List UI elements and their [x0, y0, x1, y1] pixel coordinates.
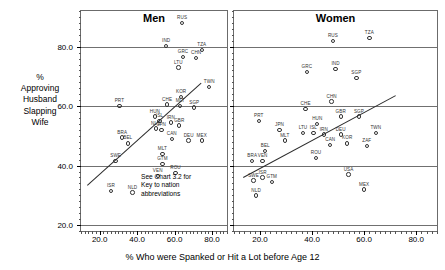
y-minor-tick: [79, 41, 82, 42]
y-minor-tick: [79, 148, 82, 149]
gridline-20: [81, 225, 227, 226]
data-point-label: GBR: [174, 118, 184, 123]
data-point: [160, 162, 164, 166]
data-point: [362, 187, 366, 191]
data-point-label: CHN: [326, 94, 336, 99]
x-minor-tick: [130, 231, 131, 234]
data-point-label: TWN: [204, 79, 215, 84]
y-minor-tick: [232, 172, 235, 173]
data-point-label: USA: [344, 167, 354, 172]
gridline-80: [234, 47, 437, 48]
x-minor-tick: [317, 231, 318, 234]
x-axis-label: % Who were Spanked or Hit a Lot before A…: [0, 252, 445, 262]
x-minor-tick: [186, 231, 187, 234]
data-point-label: IND: [331, 61, 339, 66]
x-minor-tick: [307, 231, 308, 234]
x-minor-tick: [156, 231, 157, 234]
y-minor-tick: [232, 53, 235, 54]
data-point: [113, 159, 117, 163]
y-minor-tick: [232, 177, 235, 178]
data-point-label: PRT: [115, 98, 124, 103]
data-point-label: TZA: [365, 30, 374, 35]
data-point: [333, 67, 337, 71]
x-tick-label: 40.0: [297, 235, 327, 244]
y-minor-tick: [79, 130, 82, 131]
data-point: [283, 138, 287, 142]
data-point-label: RUS: [328, 33, 338, 38]
data-point: [177, 123, 181, 127]
data-point-label: NLD: [128, 185, 138, 190]
x-tick-label: 20.0: [245, 235, 275, 244]
y-tick-label: 20.0: [39, 221, 73, 230]
chart-note: See Chart 3.2 for Key to nation abbrevia…: [141, 173, 191, 198]
x-minor-tick: [375, 231, 376, 234]
data-point: [303, 107, 307, 111]
y-minor-tick: [232, 195, 235, 196]
y-tick: [77, 47, 81, 48]
y-minor-tick: [79, 154, 82, 155]
y-minor-tick: [79, 112, 82, 113]
data-point: [357, 114, 361, 118]
x-minor-tick: [92, 231, 93, 234]
y-minor-tick: [79, 118, 82, 119]
y-minor-tick: [79, 100, 82, 101]
x-minor-tick: [343, 231, 344, 234]
data-point: [305, 70, 309, 74]
data-point-label: ISL: [156, 113, 163, 118]
y-minor-tick: [232, 201, 235, 202]
data-point-label: CAN: [325, 137, 335, 142]
x-minor-tick: [205, 231, 206, 234]
data-point: [251, 178, 255, 182]
y-minor-tick: [232, 29, 235, 30]
data-point-label: JPN: [275, 122, 284, 127]
data-point-label: BRA: [117, 130, 127, 135]
x-tick-label: 80.0: [197, 235, 227, 244]
data-point: [159, 128, 163, 132]
y-tick: [230, 225, 234, 226]
y-tick: [77, 225, 81, 226]
y-minor-tick: [232, 154, 235, 155]
x-minor-tick: [291, 231, 292, 234]
y-minor-tick: [232, 59, 235, 60]
x-minor-tick: [118, 231, 119, 234]
x-tick-label: 20.0: [85, 235, 115, 244]
data-point: [314, 156, 318, 160]
x-minor-tick: [178, 231, 179, 234]
data-point-label: SWE: [110, 153, 121, 158]
y-minor-tick: [79, 29, 82, 30]
data-point: [322, 132, 326, 136]
x-minor-tick: [333, 231, 334, 234]
data-point-label: LTU: [299, 125, 308, 130]
y-minor-tick: [232, 136, 235, 137]
data-point-label: VEN: [258, 153, 268, 158]
x-minor-tick: [380, 231, 381, 234]
x-minor-tick: [223, 231, 224, 234]
data-point-label: BRA: [247, 153, 257, 158]
x-tick-label: 60.0: [349, 235, 379, 244]
x-minor-tick: [296, 231, 297, 234]
x-minor-tick: [234, 231, 235, 234]
data-point-label: ROU: [311, 150, 322, 155]
y-axis-label: % Approving Husband Slapping Wife: [2, 72, 78, 128]
panel-women: Women 20.040.060.080.0RUSTZAGRCINDSGPCHN…: [233, 10, 438, 232]
data-point-label: TZA: [197, 42, 206, 47]
y-tick: [230, 47, 234, 48]
data-point: [270, 180, 274, 184]
y-tick-label: 40.0: [39, 161, 73, 170]
data-point: [263, 149, 267, 153]
x-tick-label: 60.0: [160, 235, 190, 244]
x-minor-tick: [369, 231, 370, 234]
x-minor-tick: [160, 231, 161, 234]
y-minor-tick: [232, 88, 235, 89]
y-minor-tick: [232, 118, 235, 119]
data-point-label: ISL: [310, 125, 317, 130]
y-minor-tick: [232, 112, 235, 113]
x-minor-tick: [276, 231, 277, 234]
data-point-label: KOR: [342, 135, 352, 140]
y-minor-tick: [79, 88, 82, 89]
x-minor-tick: [302, 231, 303, 234]
gridline-60: [234, 106, 437, 107]
y-minor-tick: [79, 53, 82, 54]
y-minor-tick: [79, 195, 82, 196]
data-point-label: ROU: [170, 165, 181, 170]
